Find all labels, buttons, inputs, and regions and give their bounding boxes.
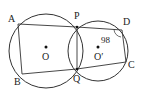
label-d: D bbox=[123, 16, 130, 27]
geometry-diagram: A B P Q D C O O′ 98 bbox=[0, 0, 143, 92]
point-dot-p bbox=[76, 26, 78, 28]
label-o-prime: O′ bbox=[94, 51, 103, 62]
label-c: C bbox=[128, 59, 135, 70]
label-a: A bbox=[8, 13, 16, 24]
center-dot-o-prime bbox=[97, 46, 100, 49]
label-q: Q bbox=[73, 73, 81, 84]
angle-value-label: 98 bbox=[101, 35, 111, 45]
quad-pdcq bbox=[77, 27, 126, 69]
center-dot-o bbox=[45, 46, 48, 49]
label-p: P bbox=[74, 10, 80, 21]
label-o: O bbox=[42, 51, 49, 62]
point-dot-q bbox=[76, 68, 78, 70]
label-b: B bbox=[14, 76, 21, 87]
